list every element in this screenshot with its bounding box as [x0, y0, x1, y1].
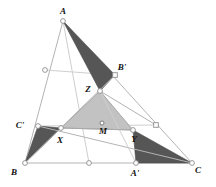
point-label-Ap: A' — [130, 168, 140, 178]
vertex-node-Cp — [36, 124, 41, 129]
point-label-A: A — [59, 6, 66, 16]
point-label-X: X — [56, 135, 64, 145]
polygon-tri-Y-Ap-C — [133, 130, 192, 163]
vertex-node-X — [59, 126, 64, 131]
vertex-node-Y — [131, 128, 136, 133]
vertex-node-Ap — [134, 161, 139, 166]
geometry-figure: AB'ZC'MXYBA'C — [0, 0, 216, 187]
vertex-node-Mb — [154, 123, 159, 128]
vertex-node-B — [23, 161, 28, 166]
point-label-C: C — [195, 165, 202, 175]
point-label-B: B — [10, 167, 17, 177]
point-label-M: M — [98, 126, 108, 136]
vertex-node-Bp — [113, 73, 118, 78]
figure-canvas: AB'ZC'MXYBA'C — [0, 0, 216, 187]
vertex-node-Z — [98, 89, 103, 94]
segment-layer — [25, 21, 192, 163]
polygon-tri-A-Bp-Z — [63, 21, 115, 91]
vertex-node-C — [190, 161, 195, 166]
polygon-tri-XYZ — [61, 91, 133, 130]
point-label-Cp: C' — [16, 120, 25, 130]
point-label-Z: Z — [84, 84, 91, 94]
point-label-Bp: B' — [117, 62, 127, 72]
vertex-node-Mc — [87, 161, 92, 166]
vertex-node-M — [100, 121, 104, 125]
vertex-node-A — [61, 19, 66, 24]
polygon-layer — [25, 21, 192, 163]
vertex-node-Ma — [43, 68, 48, 73]
